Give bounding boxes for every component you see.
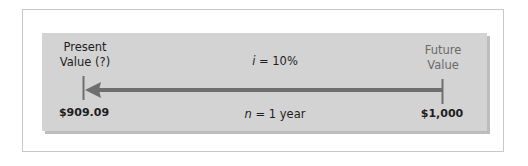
arrow-left-icon — [85, 82, 101, 98]
present-value-label-line1: Present — [58, 40, 112, 55]
present-value-amount: $909.09 — [52, 105, 116, 120]
future-value-label: Future Value — [416, 43, 470, 73]
future-value-label-line2: Value — [416, 58, 470, 73]
future-value-amount: $1,000 — [410, 106, 474, 121]
present-value-label-line2: Value (?) — [58, 55, 112, 70]
arrow-shaft — [96, 88, 442, 92]
timeline-arrow — [0, 0, 528, 166]
period-variable: n — [245, 107, 252, 121]
interest-rate-label: i = 10% — [230, 54, 320, 69]
present-value-label: Present Value (?) — [58, 40, 112, 70]
rate-value: = 10% — [255, 54, 298, 68]
period-label: n = 1 year — [215, 107, 335, 122]
future-value-label-line1: Future — [416, 43, 470, 58]
period-value: = 1 year — [252, 107, 306, 121]
